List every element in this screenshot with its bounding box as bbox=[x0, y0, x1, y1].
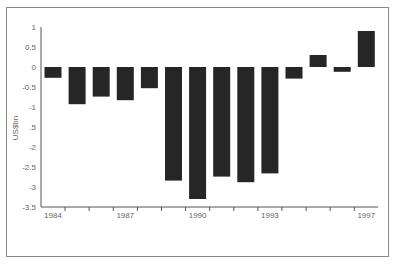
bar-1992 bbox=[237, 67, 254, 182]
y-tick-label: -3.5 bbox=[22, 203, 36, 212]
x-tick-label: 1987 bbox=[116, 211, 134, 220]
y-axis-title: US$bn bbox=[11, 116, 20, 140]
y-tick-label: -3 bbox=[29, 183, 37, 192]
bar-chart: 10.50-0.5-1.5-2-2.5-3-3.5 19841987199019… bbox=[0, 0, 396, 264]
bar-1989 bbox=[165, 67, 182, 181]
y-ticks-group: 10.50-0.5-1.5-2-2.5-3-3.5 bbox=[22, 23, 36, 212]
bar-1996 bbox=[334, 67, 351, 72]
y-tick-label: -2.5 bbox=[22, 163, 36, 172]
y-tick-label: -1 bbox=[29, 103, 37, 112]
bar-1985 bbox=[69, 67, 86, 104]
bar-1990 bbox=[189, 67, 206, 199]
bar-1984 bbox=[45, 67, 62, 78]
bar-1987 bbox=[117, 67, 134, 100]
x-tick-label: 1984 bbox=[44, 211, 62, 220]
bar-1997 bbox=[358, 31, 375, 67]
bar-1995 bbox=[310, 55, 327, 67]
bar-1991 bbox=[213, 67, 230, 177]
bars-group bbox=[45, 31, 375, 199]
x-ticks-group: 19841987199019931997 bbox=[44, 207, 376, 220]
x-tick-label: 1990 bbox=[189, 211, 207, 220]
y-tick-label: 0.5 bbox=[25, 43, 37, 52]
x-tick-label: 1997 bbox=[357, 211, 375, 220]
y-tick-label: -0.5 bbox=[22, 83, 36, 92]
bar-1988 bbox=[141, 67, 158, 88]
y-tick-label: -2 bbox=[29, 143, 37, 152]
bar-1986 bbox=[93, 67, 110, 97]
y-tick-label: 1 bbox=[32, 23, 37, 32]
y-tick-label: .5 bbox=[29, 123, 36, 132]
y-tick-label: 0 bbox=[32, 63, 37, 72]
bar-1993 bbox=[261, 67, 278, 173]
bar-1994 bbox=[286, 67, 303, 79]
x-tick-label: 1993 bbox=[261, 211, 279, 220]
